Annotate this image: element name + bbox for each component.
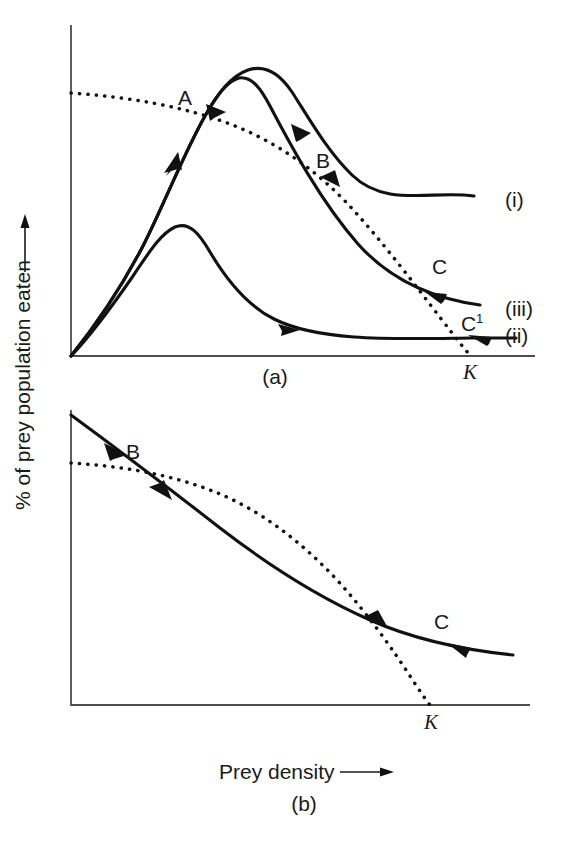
panel-a-label-K: K (462, 360, 478, 384)
panel-b-caption: (b) (291, 792, 317, 815)
panel-a-label-C1-superscript: 1 (476, 311, 483, 326)
panel-a-arrow-near-a (206, 104, 226, 121)
figure-root: % of prey population eaten (0, 0, 574, 842)
y-axis-title: % of prey population eaten (11, 260, 34, 510)
y-axis-arrow-head (21, 214, 30, 228)
panel-a-curve-iii (71, 78, 480, 356)
panel-b-label-B: B (126, 440, 140, 463)
panel-a-curve-label-i: (i) (505, 188, 524, 211)
panel-a-curve-ii (71, 226, 516, 356)
panel-b: B C K Prey density (b) (71, 410, 530, 815)
panel-b-label-C: C (434, 610, 449, 633)
panel-a-label-B: B (316, 149, 330, 172)
panel-b-label-K: K (423, 710, 439, 734)
panel-b-arrow-upper-left (104, 443, 127, 461)
panel-a-arrow-above-b (291, 124, 311, 142)
panel-a-curve-label-iii: (iii) (505, 297, 533, 320)
panel-b-arrow-near-c (447, 643, 471, 658)
panel-a-label-A: A (178, 86, 192, 109)
y-axis-title-group: % of prey population eaten (11, 214, 34, 510)
panel-a-axes (71, 25, 535, 356)
figure-svg: % of prey population eaten (0, 0, 574, 842)
panel-a-arrow-near-c (425, 292, 447, 304)
panel-a-curve-label-ii: (ii) (505, 324, 528, 347)
panel-a-arrow-below-b (320, 170, 340, 187)
panel-a: A B C C 1 (i) (iii) (ii) K (a) (71, 25, 535, 388)
x-axis-title: Prey density (219, 760, 335, 783)
x-axis-arrow-head (380, 768, 394, 777)
panel-a-label-C: C (432, 255, 447, 278)
panel-b-curve-recruitment (71, 463, 430, 705)
panel-a-caption: (a) (262, 365, 288, 388)
panel-a-label-C1: C (461, 312, 476, 335)
